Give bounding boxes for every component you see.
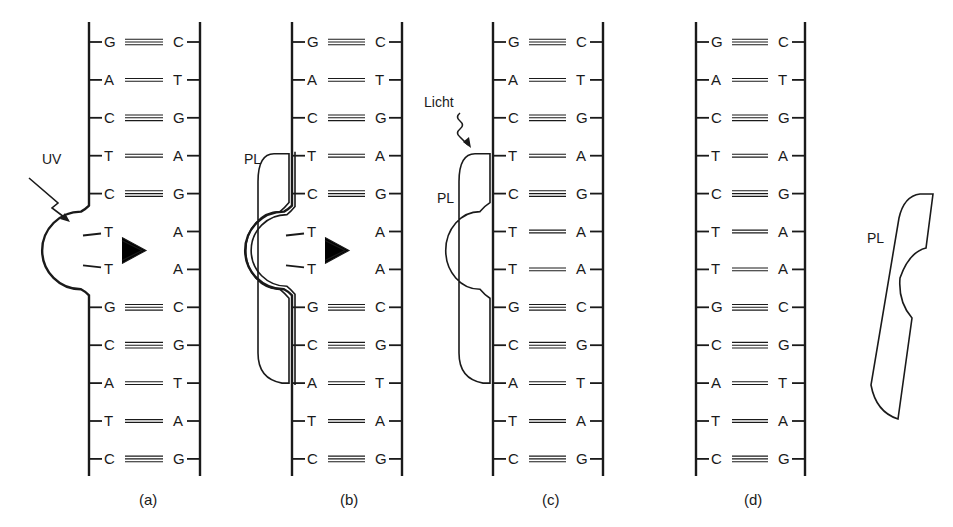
photolyase-bound-shape bbox=[246, 154, 289, 383]
photolyase-free-shape bbox=[871, 194, 933, 419]
base-right: A bbox=[375, 412, 385, 429]
base-left: T bbox=[508, 223, 517, 240]
base-pair: AT bbox=[89, 71, 200, 88]
base-pair: TA bbox=[89, 147, 200, 164]
base-pair: CG bbox=[292, 450, 402, 467]
base-left: C bbox=[711, 109, 722, 126]
base-right: G bbox=[778, 336, 790, 353]
base-right: T bbox=[173, 374, 182, 391]
base-right: A bbox=[576, 260, 586, 277]
base-pair: AT bbox=[696, 71, 805, 88]
base-left: C bbox=[508, 336, 519, 353]
base-left: A bbox=[508, 374, 518, 391]
base-pair: AT bbox=[493, 374, 603, 391]
left-strand bbox=[42, 22, 89, 476]
base-right: G bbox=[173, 450, 185, 467]
base-pair: TA bbox=[83, 260, 200, 277]
base-right: G bbox=[576, 336, 588, 353]
base-pair: GC bbox=[696, 33, 805, 50]
base-right: C bbox=[576, 298, 587, 315]
base-left: G bbox=[508, 298, 520, 315]
base-left: T bbox=[307, 412, 316, 429]
base-pair: TA bbox=[493, 223, 603, 240]
base-pair: TA bbox=[493, 260, 603, 277]
base-right: A bbox=[173, 223, 183, 240]
base-left: G bbox=[711, 298, 723, 315]
base-pair: GC bbox=[493, 33, 603, 50]
base-left: C bbox=[711, 185, 722, 202]
base-left: C bbox=[508, 109, 519, 126]
base-right: A bbox=[375, 223, 385, 240]
base-right: T bbox=[778, 374, 787, 391]
base-right: C bbox=[778, 298, 789, 315]
base-pair: TA bbox=[292, 147, 402, 164]
base-right: T bbox=[576, 71, 585, 88]
light-annotation: Licht PL bbox=[424, 94, 471, 206]
base-right: A bbox=[576, 147, 586, 164]
uv-label: UV bbox=[42, 151, 62, 167]
base-pair: TA bbox=[292, 412, 402, 429]
base-right: A bbox=[375, 260, 385, 277]
base-right: G bbox=[173, 185, 185, 202]
base-pair: CG bbox=[696, 450, 805, 467]
base-pair: GC bbox=[89, 298, 200, 315]
uv-annotation: UV bbox=[29, 151, 70, 222]
base-pair: TA bbox=[696, 260, 805, 277]
base-left: G bbox=[104, 33, 116, 50]
base-left: C bbox=[508, 450, 519, 467]
base-left: T bbox=[104, 147, 113, 164]
base-left: C bbox=[711, 336, 722, 353]
base-left: C bbox=[307, 450, 318, 467]
dna-panel-c: GCATCGTACGTATAGCCGATTACG bbox=[446, 22, 603, 476]
base-pair: AT bbox=[493, 71, 603, 88]
base-pair: AT bbox=[292, 71, 402, 88]
panel-label-a: (a) bbox=[139, 491, 157, 508]
base-pair: TA bbox=[286, 223, 402, 240]
panel-label-c: (c) bbox=[542, 491, 560, 508]
base-left: T bbox=[508, 412, 517, 429]
base-left: C bbox=[104, 185, 115, 202]
base-left: C bbox=[307, 336, 318, 353]
base-right: A bbox=[576, 223, 586, 240]
base-right: G bbox=[375, 109, 387, 126]
base-left: G bbox=[307, 33, 319, 50]
base-right: C bbox=[375, 33, 386, 50]
base-left: G bbox=[307, 298, 319, 315]
base-right: T bbox=[576, 374, 585, 391]
base-pair: TA bbox=[696, 412, 805, 429]
base-pair: CG bbox=[493, 336, 603, 353]
base-left: T bbox=[104, 412, 113, 429]
base-pair: TA bbox=[89, 412, 200, 429]
pl-label-d: PL bbox=[867, 230, 884, 246]
base-pair: TA bbox=[83, 223, 200, 240]
base-pair: CG bbox=[696, 185, 805, 202]
base-right: G bbox=[375, 450, 387, 467]
pl-label-c: PL bbox=[437, 190, 454, 206]
base-left: T bbox=[104, 223, 113, 240]
base-left: G bbox=[508, 33, 520, 50]
base-left: C bbox=[104, 109, 115, 126]
base-right: G bbox=[375, 185, 387, 202]
base-pair: TA bbox=[696, 147, 805, 164]
photolyase-bound-shape bbox=[446, 154, 490, 383]
base-left: T bbox=[711, 412, 720, 429]
base-pair: CG bbox=[89, 450, 200, 467]
base-left: A bbox=[307, 374, 317, 391]
base-right: A bbox=[173, 260, 183, 277]
base-pair: CG bbox=[696, 109, 805, 126]
base-pair: GC bbox=[493, 298, 603, 315]
base-right: C bbox=[576, 33, 587, 50]
base-pair: GC bbox=[696, 298, 805, 315]
base-left: T bbox=[711, 147, 720, 164]
left-strand bbox=[245, 22, 292, 476]
dna-panel-d: GCATCGTACGTATAGCCGATTACG bbox=[696, 22, 805, 476]
base-right: C bbox=[778, 33, 789, 50]
base-right: A bbox=[173, 147, 183, 164]
base-left: C bbox=[104, 336, 115, 353]
base-right: A bbox=[375, 147, 385, 164]
base-right: A bbox=[778, 147, 788, 164]
base-left: T bbox=[307, 260, 316, 277]
base-right: G bbox=[778, 109, 790, 126]
base-left: T bbox=[508, 147, 517, 164]
panel-label-d: (d) bbox=[744, 491, 762, 508]
